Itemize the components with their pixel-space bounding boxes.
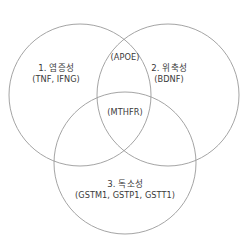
venn-circles-svg (0, 0, 250, 248)
set-title-inflammatory: 1. 염증성 (17, 62, 95, 74)
venn-circle-inflammatory (9, 24, 151, 166)
set-genes-toxic: (GSTM1, GSTP1, GSTT1) (53, 190, 197, 202)
venn-diagram: 1. 염증성 (TNF, IFNG) 2. 위축성 (BDNF) 3. 독소성 … (0, 0, 250, 248)
intersection-genes-apoe: (APOE) (89, 52, 161, 64)
set-title-toxic: 3. 독소성 (53, 178, 197, 190)
intersection-genes-mthfr: (MTHFR) (88, 107, 162, 119)
intersection-label-center: (MTHFR) (88, 107, 162, 119)
set-label-atrophic: 2. 위축성 (BDNF) (130, 62, 208, 86)
set-label-inflammatory: 1. 염증성 (TNF, IFNG) (17, 62, 95, 86)
intersection-label-top: (APOE) (89, 52, 161, 64)
venn-circle-atrophic (97, 24, 239, 166)
set-label-toxic: 3. 독소성 (GSTM1, GSTP1, GSTT1) (53, 178, 197, 202)
set-genes-atrophic: (BDNF) (130, 74, 208, 86)
set-genes-inflammatory: (TNF, IFNG) (17, 74, 95, 86)
